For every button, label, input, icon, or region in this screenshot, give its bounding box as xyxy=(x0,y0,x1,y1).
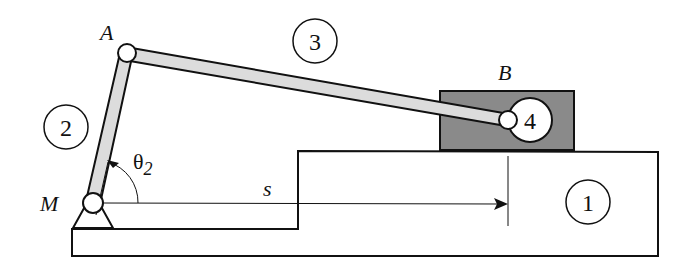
slider-crank-diagram: 2 3 4 1 A B M θ2 s xyxy=(0,0,695,276)
point-B-label: B xyxy=(498,60,511,85)
s-label: s xyxy=(263,176,272,201)
crank-link xyxy=(86,53,132,215)
link-2-label: 2 xyxy=(60,115,72,141)
link-4-label: 4 xyxy=(524,108,536,134)
point-M-label: M xyxy=(39,191,60,216)
joint-B xyxy=(499,111,517,129)
coupler-link xyxy=(124,47,509,126)
theta-label: θ2 xyxy=(133,149,153,179)
joint-M xyxy=(83,193,103,213)
joint-A xyxy=(118,44,136,62)
point-A-label: A xyxy=(98,20,114,45)
link-3-label: 3 xyxy=(309,29,321,55)
link-1-label: 1 xyxy=(582,190,594,216)
